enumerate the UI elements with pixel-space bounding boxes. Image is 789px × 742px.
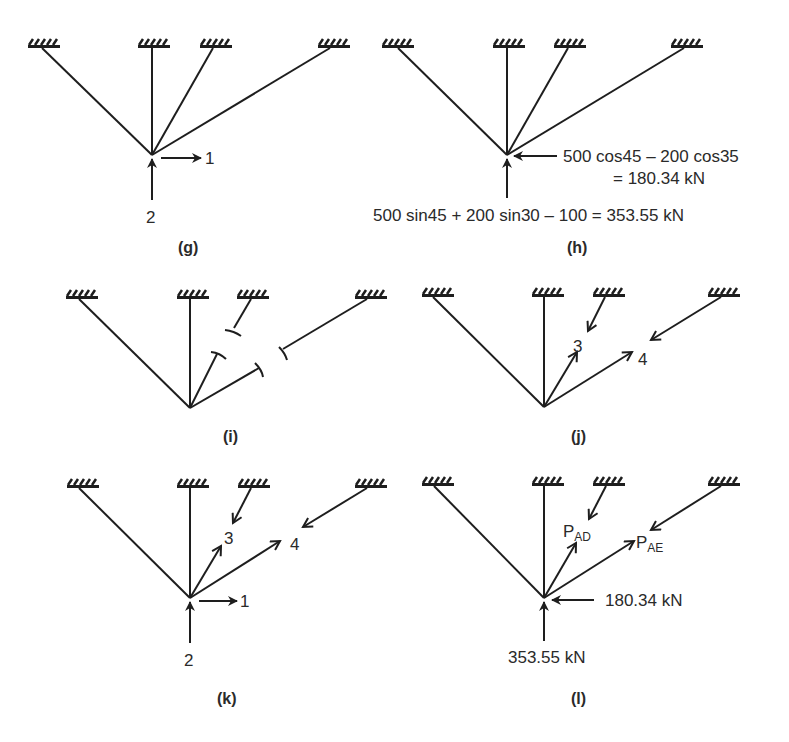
support-b bbox=[493, 39, 525, 48]
support-d bbox=[671, 39, 703, 48]
member-1 bbox=[79, 488, 190, 598]
support-c bbox=[237, 290, 269, 299]
member-1 bbox=[79, 299, 190, 408]
support-c bbox=[200, 39, 232, 48]
member-4-label: 4 bbox=[638, 350, 647, 369]
member-3-upper bbox=[234, 299, 251, 328]
support-d bbox=[355, 479, 387, 488]
horizontal-expression: 500 cos45 – 200 cos35 bbox=[563, 147, 739, 166]
panel-caption: (h) bbox=[567, 239, 587, 256]
cut-mark-icon bbox=[211, 352, 226, 359]
support-a bbox=[422, 477, 454, 486]
horizontal-load-label: 1 bbox=[205, 149, 214, 168]
cut-mark-icon bbox=[225, 330, 241, 336]
horizontal-load-label: 1 bbox=[240, 592, 249, 611]
support-d bbox=[708, 477, 740, 486]
support-b bbox=[177, 479, 209, 488]
member-4-upper bbox=[283, 299, 367, 349]
support-a bbox=[422, 288, 454, 297]
member-3-node-arrow-icon bbox=[190, 546, 221, 598]
panel-caption: (j) bbox=[571, 428, 586, 445]
vertical-reaction-label: 353.55 kN bbox=[508, 648, 586, 667]
member-ae-force-arrow-icon bbox=[651, 486, 721, 530]
support-c bbox=[554, 39, 586, 48]
member-4 bbox=[152, 48, 330, 155]
member-3 bbox=[507, 48, 568, 155]
member-3 bbox=[152, 48, 213, 155]
member-3-node-arrow-icon bbox=[544, 352, 577, 407]
support-b bbox=[177, 290, 209, 299]
panel-k: 3 4 1 2 (k) bbox=[67, 479, 387, 707]
member-3-label: 3 bbox=[224, 529, 233, 548]
support-d bbox=[318, 39, 350, 48]
support-a bbox=[382, 39, 414, 48]
member-4-label: 4 bbox=[290, 535, 299, 554]
member-ae-node-arrow-icon bbox=[544, 541, 634, 598]
panel-h: 500 cos45 – 200 cos35 = 180.34 kN 500 si… bbox=[373, 39, 739, 256]
panel-caption: (l) bbox=[571, 690, 586, 707]
member-1 bbox=[433, 297, 544, 407]
panel-i: (i) bbox=[66, 290, 387, 445]
support-b bbox=[532, 477, 564, 486]
panel-g: 1 2 (g) bbox=[28, 39, 350, 256]
horizontal-reaction-label: 180.34 kN bbox=[605, 591, 683, 610]
support-a bbox=[66, 290, 98, 299]
support-c bbox=[593, 288, 625, 297]
horizontal-result: = 180.34 kN bbox=[613, 169, 705, 188]
support-b bbox=[138, 39, 170, 48]
panel-caption: (i) bbox=[223, 428, 238, 445]
vertical-load-label: 2 bbox=[146, 208, 155, 227]
support-d bbox=[708, 288, 740, 297]
member-3-label: 3 bbox=[573, 337, 582, 356]
member-4-node-arrow-icon bbox=[190, 541, 280, 598]
support-c bbox=[593, 477, 625, 486]
member-1 bbox=[42, 48, 152, 155]
member-ad-force-arrow-icon bbox=[589, 486, 606, 519]
structure-figure: 1 2 (g) 500 cos45 – 200 cos35 = 180.34 k… bbox=[0, 0, 789, 742]
support-a bbox=[28, 39, 60, 48]
member-ad-label: PAD bbox=[563, 522, 591, 544]
support-d bbox=[355, 290, 387, 299]
vertical-expression: 500 sin45 + 200 sin30 – 100 = 353.55 kN bbox=[373, 206, 684, 225]
member-4 bbox=[507, 48, 684, 155]
support-a bbox=[67, 479, 99, 488]
member-1 bbox=[434, 486, 544, 598]
member-4-node-arrow-icon bbox=[544, 352, 632, 407]
member-3-force-arrow-icon bbox=[233, 488, 251, 523]
panel-caption: (k) bbox=[217, 690, 237, 707]
panel-j: 3 4 (j) bbox=[422, 288, 740, 445]
member-4-force-arrow-icon bbox=[651, 297, 721, 340]
member-1 bbox=[398, 48, 507, 155]
member-ae-label: PAE bbox=[636, 533, 663, 555]
vertical-load-label: 2 bbox=[184, 651, 193, 670]
member-3-force-arrow-icon bbox=[588, 297, 605, 331]
panel-l: PAD PAE 180.34 kN 353.55 kN (l) bbox=[422, 477, 740, 707]
member-4-force-arrow-icon bbox=[303, 488, 367, 527]
member-ad-node-arrow-icon bbox=[544, 543, 576, 598]
panel-caption: (g) bbox=[178, 239, 198, 256]
support-c bbox=[238, 479, 270, 488]
support-b bbox=[532, 288, 564, 297]
